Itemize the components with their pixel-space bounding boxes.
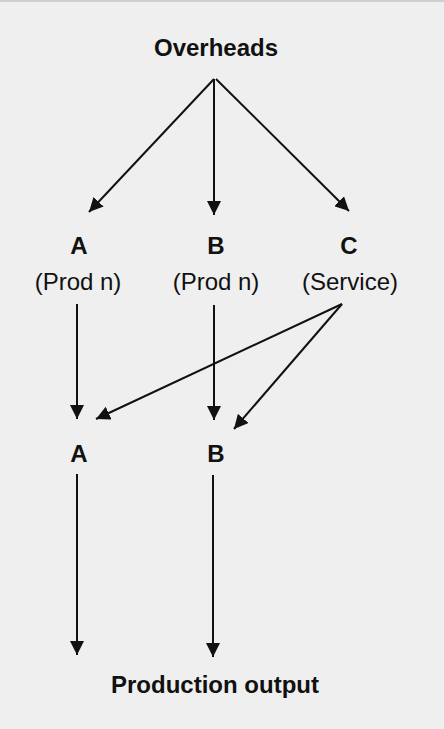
arrow-c-to-b	[234, 304, 342, 429]
dept-a-type: (Prod n)	[35, 268, 122, 296]
dept-c-type: (Service)	[302, 268, 398, 296]
dept-b-type: (Prod n)	[173, 268, 260, 296]
overheads-label: Overheads	[154, 34, 278, 62]
arrow-overheads-to-c	[216, 79, 349, 211]
dept-c-letter: C	[340, 232, 357, 260]
dept-b-letter: B	[207, 232, 224, 260]
arrow-c-to-a	[96, 304, 342, 419]
production-output-label: Production output	[111, 671, 319, 699]
realloc-a-letter: A	[70, 440, 87, 468]
realloc-b-letter: B	[207, 440, 224, 468]
arrow-overheads-to-a	[89, 79, 214, 212]
arrows-layer	[0, 0, 444, 729]
dept-a-letter: A	[70, 232, 87, 260]
